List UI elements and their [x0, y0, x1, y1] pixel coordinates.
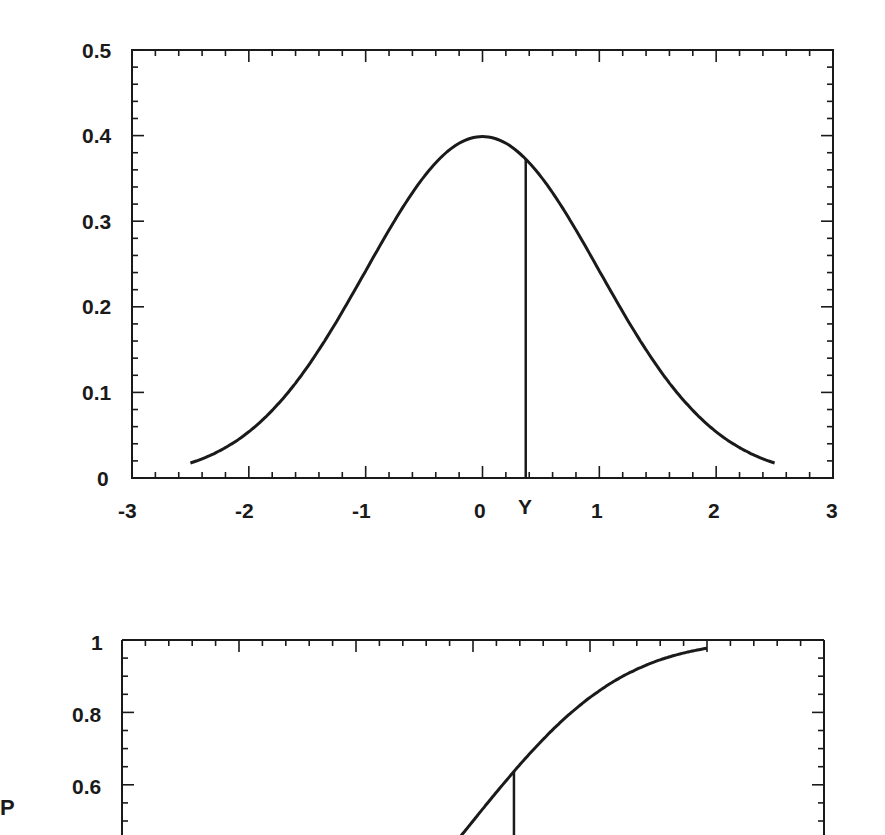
y-marker-label: Y: [518, 496, 532, 517]
y-tick-label: 0.6: [72, 776, 101, 797]
y-axis-title: P: [0, 797, 15, 819]
x-tick-label: 1: [591, 500, 603, 521]
cumulative-curve: [444, 648, 707, 835]
y-tick-label: 0.3: [82, 211, 111, 232]
y-tick-label: 0.4: [82, 125, 111, 146]
x-tick-label: -2: [235, 500, 254, 521]
x-tick-label: 3: [826, 500, 838, 521]
x-tick-label: -1: [352, 500, 371, 521]
cumulative-plot: [122, 640, 824, 835]
x-tick-label: -3: [118, 500, 137, 521]
density-plot-ticks: [132, 50, 833, 478]
y-tick-label: 0: [97, 468, 109, 489]
y-tick-label: 1: [91, 632, 103, 653]
y-tick-label: 0.5: [82, 40, 111, 61]
x-tick-label: 2: [708, 500, 720, 521]
y-tick-label: 0.1: [82, 382, 111, 403]
y-tick-label: 0.8: [72, 704, 101, 725]
figure: 0.5 0.4 0.3 0.2 0.1 0 -3 -2 -1 0 Y 1 2 3…: [0, 0, 885, 835]
density-plot-frame: [132, 50, 833, 478]
y-tick-label: 0.2: [82, 296, 111, 317]
density-curve: [190, 137, 774, 464]
density-plot: [0, 0, 885, 835]
x-tick-label: 0: [474, 500, 486, 521]
